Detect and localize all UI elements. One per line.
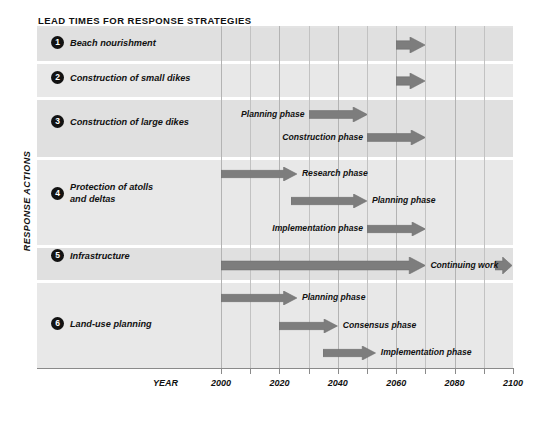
phase-arrow — [323, 346, 376, 360]
phase-label: Planning phase — [241, 108, 305, 121]
gridline — [279, 26, 280, 368]
row-number-badge: 5 — [51, 249, 64, 262]
phase-arrow — [221, 167, 297, 181]
phase-label: Consensus phase — [343, 319, 417, 332]
phase-arrow — [396, 73, 425, 89]
x-tick-label: 2000 — [211, 378, 231, 388]
x-tick-label: 2080 — [445, 378, 465, 388]
phase-label: Continuing work — [430, 259, 498, 272]
x-tick — [250, 368, 251, 374]
phase-label: Construction phase — [282, 131, 363, 144]
x-tick-label: 2100 — [503, 378, 523, 388]
row-number-badge: 1 — [51, 36, 64, 49]
row-label-5: 5Infrastructure — [51, 249, 130, 262]
phase-arrow — [396, 37, 425, 53]
row-label-4: 4Protection of atolls and deltas — [51, 181, 153, 205]
gridline — [484, 26, 485, 368]
x-tick — [455, 368, 456, 374]
x-tick-label: 2020 — [269, 378, 289, 388]
x-tick-label: 2040 — [328, 378, 348, 388]
x-tick — [338, 368, 339, 374]
phase-label: Implementation phase — [381, 346, 472, 359]
row-label-2: 2Construction of small dikes — [51, 71, 190, 84]
row-label-text: Construction of large dikes — [70, 116, 189, 128]
phase-arrow — [367, 222, 425, 236]
phase-arrow — [367, 130, 425, 145]
chart-root: LEAD TIMES FOR RESPONSE STRATEGIES RESPO… — [0, 0, 551, 421]
x-tick — [425, 368, 426, 374]
row-label-1: 1Beach nourishment — [51, 36, 156, 49]
row-label-text: Land-use planning — [70, 318, 152, 330]
x-tick-label: 2060 — [386, 378, 406, 388]
phase-label: Planning phase — [302, 291, 366, 304]
row-label-6: 6Land-use planning — [51, 317, 152, 330]
gridline — [455, 26, 456, 368]
x-tick — [396, 368, 397, 374]
phase-arrow — [221, 257, 425, 274]
x-tick — [513, 368, 514, 374]
row-label-text: Construction of small dikes — [70, 72, 190, 84]
row-number-badge: 4 — [51, 187, 64, 200]
x-tick — [484, 368, 485, 374]
gridline — [250, 26, 251, 368]
x-tick — [309, 368, 310, 374]
row-label-text: Infrastructure — [70, 250, 130, 262]
y-axis-caption: RESPONSE ACTIONS — [22, 111, 32, 291]
x-axis-title: YEAR — [153, 378, 178, 388]
gridline — [221, 26, 222, 368]
x-tick — [221, 368, 222, 374]
chart-title: LEAD TIMES FOR RESPONSE STRATEGIES — [38, 15, 252, 26]
row-number-badge: 2 — [51, 71, 64, 84]
phase-arrow — [221, 291, 297, 305]
row-number-badge: 6 — [51, 317, 64, 330]
x-tick — [367, 368, 368, 374]
phase-label: Implementation phase — [272, 222, 363, 235]
gridline — [367, 26, 368, 368]
row-label-3: 3Construction of large dikes — [51, 115, 189, 128]
x-tick — [279, 368, 280, 374]
row-label-text: Protection of atolls and deltas — [70, 181, 153, 205]
phase-arrow — [309, 107, 367, 122]
phase-arrow — [279, 319, 337, 333]
phase-label: Research phase — [302, 167, 368, 180]
row-number-badge: 3 — [51, 115, 64, 128]
phase-arrow — [291, 194, 367, 208]
x-axis-line — [37, 368, 513, 369]
phase-label: Planning phase — [372, 194, 436, 207]
row-label-text: Beach nourishment — [70, 37, 156, 49]
